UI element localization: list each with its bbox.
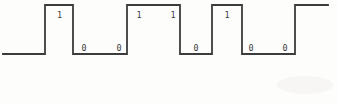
bit-label-low: 0 <box>81 43 86 53</box>
bit-label-low: 0 <box>282 43 287 53</box>
square-wave-trace <box>3 5 328 54</box>
bit-label-low: 0 <box>193 43 198 53</box>
scan-artifact-smudge <box>277 76 333 94</box>
bit-label-high: 1 <box>136 10 141 20</box>
digital-waveform-figure: 100110100 <box>0 0 338 103</box>
bit-label-low: 0 <box>116 43 121 53</box>
bit-label-high: 1 <box>57 10 62 20</box>
bit-label-high: 1 <box>170 10 175 20</box>
bit-label-low: 0 <box>248 43 253 53</box>
digital-waveform-svg: 100110100 <box>0 0 338 103</box>
bit-label-high: 1 <box>224 10 229 20</box>
